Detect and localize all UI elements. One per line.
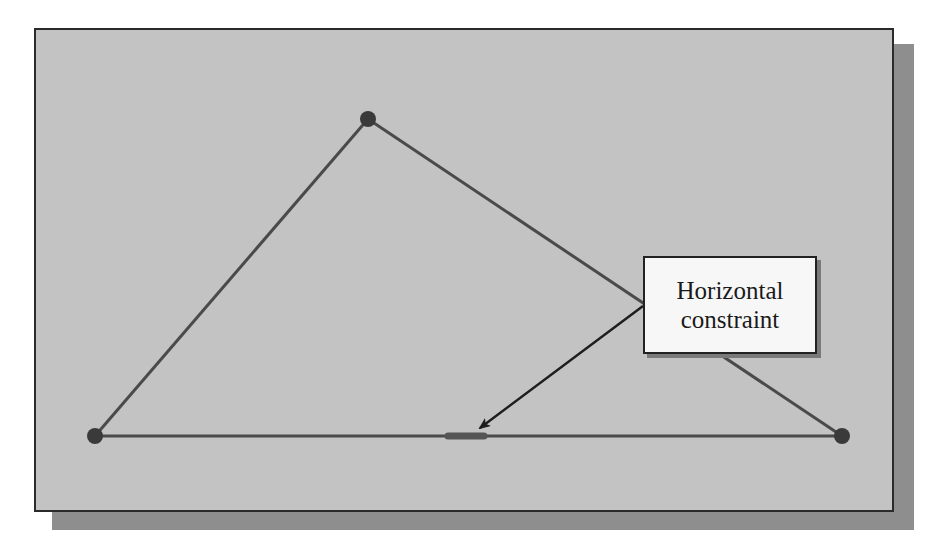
sketch-point-left [87, 428, 103, 444]
callout-box: Horizontal constraint [643, 256, 817, 354]
sketch-point-right [834, 428, 850, 444]
callout-line-2: constraint [681, 305, 780, 334]
callout-line-1: Horizontal [677, 276, 784, 305]
sketch-line-left-side [95, 119, 368, 436]
sketch-point-apex [360, 111, 376, 127]
callout-arrow [480, 306, 643, 428]
